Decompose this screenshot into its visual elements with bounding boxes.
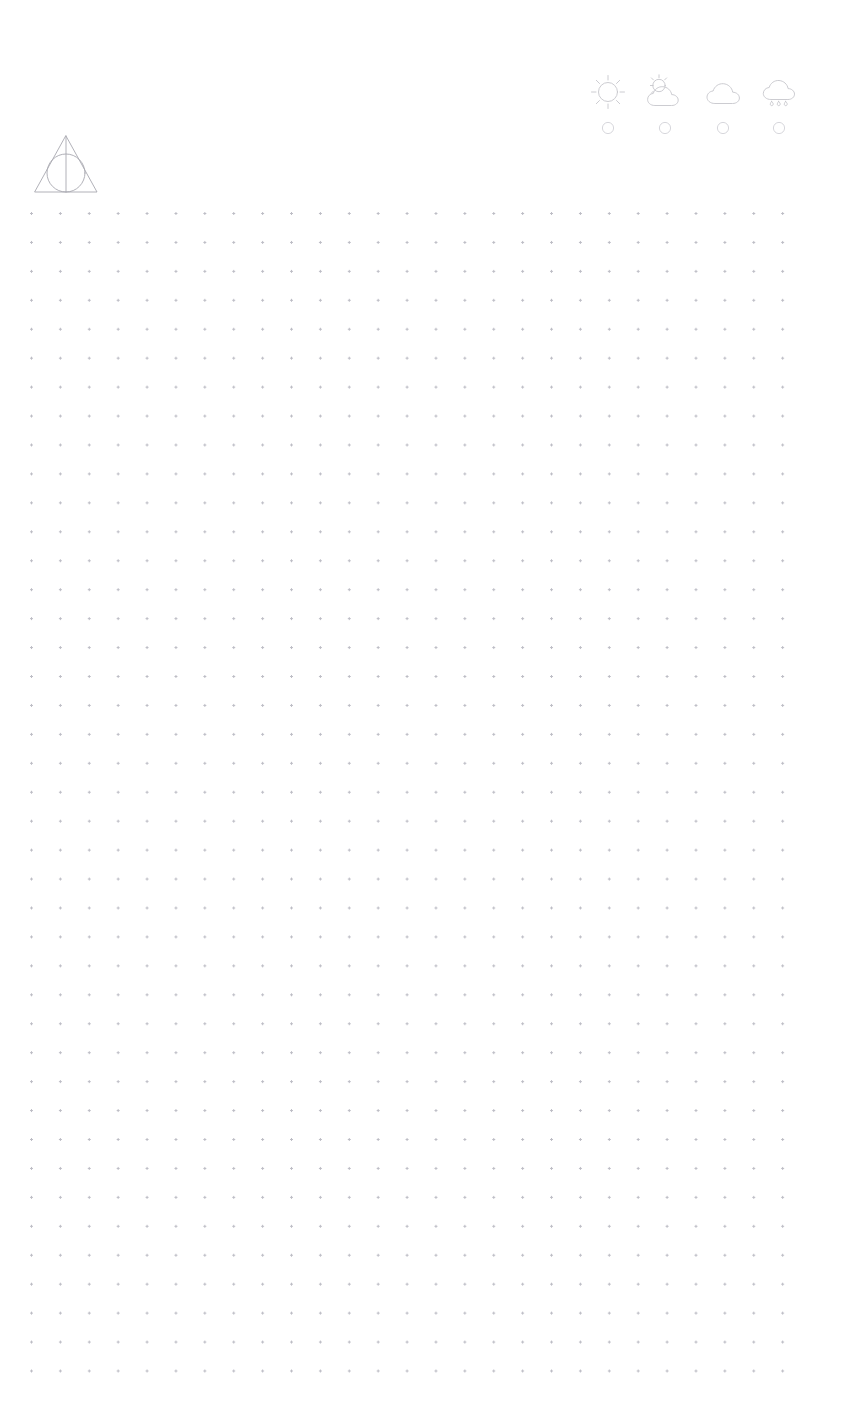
weather-option-partly-cloudy[interactable]: Partly Cloudy <box>640 72 690 142</box>
weather-icon-strip: Sunny Partly Cloudy <box>583 72 808 142</box>
sun-icon <box>583 72 633 112</box>
weather-selector-radio[interactable] <box>601 121 615 135</box>
weather-option-rainy[interactable]: Rainy <box>754 72 804 142</box>
weather-selector-radio[interactable] <box>658 121 672 135</box>
weather-selector-radio[interactable] <box>772 121 786 135</box>
deathly-hallows-logo: Deathly Hallows symbol <box>33 134 99 196</box>
weather-selector-radio[interactable] <box>716 121 730 135</box>
cloud-rain-icon <box>754 72 804 112</box>
note-page: Deathly Hallows symbol <box>0 0 841 1404</box>
weather-option-sunny[interactable]: Sunny <box>583 72 633 142</box>
dotted-writing-grid[interactable] <box>30 212 802 1396</box>
weather-option-cloudy[interactable]: Cloudy <box>698 72 748 142</box>
sun-behind-cloud-icon <box>640 72 690 112</box>
cloud-icon <box>698 72 748 112</box>
deathly-hallows-icon <box>33 134 99 196</box>
